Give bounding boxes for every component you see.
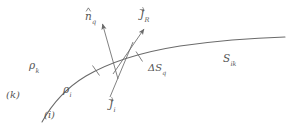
flux-reflected-subscript: R [144,16,149,24]
density-k-subscript: k [35,67,39,75]
flux-incident-subscript: i [113,106,115,114]
region-i-label: (i) [44,110,55,120]
density-i-label: ρi [63,84,71,98]
density-k-label: ρk [29,60,39,74]
normal-vector-label: n q [85,11,96,25]
flux-reflected-arrow [113,29,144,74]
surface-ik-subscript: ik [230,60,236,68]
vector-accent-icon [140,6,144,11]
flux-incident-label: J i [109,99,115,113]
flux-reflected-label: J R [140,9,149,23]
tick-mark-left [93,66,100,76]
surface-element-subscript: q [162,69,166,76]
interface-curve [42,37,285,122]
figure-canvas: n q J R J i ρk ρi (k) (i) [0,0,289,132]
surface-ik-label: Sik [223,53,236,67]
vector-accent-icon [109,96,113,101]
hat-accent-icon [85,7,92,12]
surface-element-label: ΔSq [148,63,166,75]
surface-element-base: ΔS [148,62,162,73]
normal-vector-subscript: q [92,18,96,26]
tick-mark-right [136,52,143,62]
region-k-label: (k) [6,90,20,100]
